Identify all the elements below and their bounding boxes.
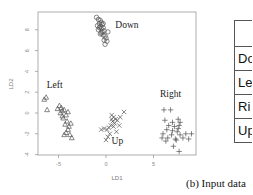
data-points [42,15,194,154]
svg-text:Down: Down [115,20,138,30]
figure-caption: (b) Input data [186,177,246,189]
svg-text:2: 2 [24,91,30,94]
svg-text:6: 6 [24,49,30,52]
svg-text:Right: Right [160,89,181,99]
table-cell-left: Le [235,71,253,95]
svg-text:8: 8 [24,28,30,31]
side-table: Do Le Ri Up [234,20,252,143]
svg-text:Left: Left [47,80,63,90]
table-cell-right: Ri [235,95,253,119]
y-axis-ticks: -4-202468 [24,28,38,157]
svg-text:0: 0 [104,161,107,167]
svg-text:-5: -5 [56,161,61,167]
y-axis-label: LD2 [8,78,14,90]
svg-text:-2: -2 [24,131,30,136]
svg-text:5: 5 [152,161,155,167]
table-header-cell [235,21,253,47]
x-axis-label: LD1 [111,175,123,181]
svg-text:-4: -4 [24,152,30,157]
scatter-plot: -4-202468 -505 LD1 LD2 DownLeftUpRight [0,0,252,195]
svg-text:Up: Up [112,136,124,146]
svg-text:0: 0 [24,111,30,114]
x-axis-ticks: -505 [56,155,155,167]
table-cell-up: Up [235,119,253,143]
svg-text:4: 4 [24,70,30,73]
table-cell-down: Do [235,47,253,71]
